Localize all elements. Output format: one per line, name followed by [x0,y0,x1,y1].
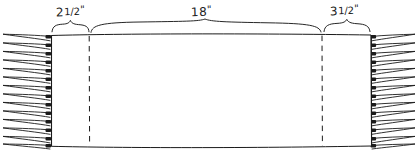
center-field-unit: " [207,4,212,15]
right-border-fraction: 1/2 [338,5,354,16]
woven-panel-body [52,34,372,148]
right-border-unit: " [354,3,359,14]
center-field-dimension-label: 18" [191,4,212,20]
right-border-brace [324,19,370,31]
center-field-value: 18 [191,5,207,19]
diagram-canvas: 21/2" 18" 31/2" [0,0,417,155]
center-field-brace [91,19,321,32]
left-border-unit: " [80,4,85,15]
left-fringe-group [3,34,51,149]
left-border-dimension-label: 21/2" [56,4,86,20]
textile-diagram-svg [0,0,417,155]
right-border-dimension-label: 31/2" [330,3,360,19]
right-fringe-group [371,34,415,149]
left-border-fraction: 1/2 [64,6,80,17]
left-border-brace [52,20,89,31]
